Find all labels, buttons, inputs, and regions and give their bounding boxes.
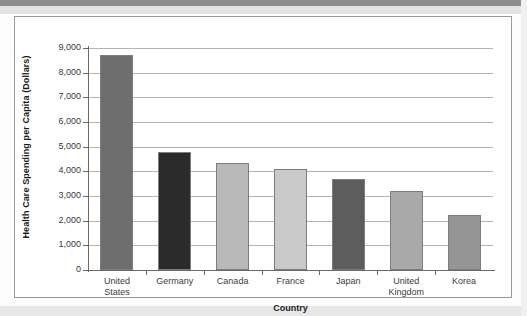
x-axis-tick-label: Canada — [204, 276, 262, 287]
bar — [100, 55, 133, 270]
x-axis-title: Country — [88, 303, 493, 313]
x-axis-tick-label: Japan — [319, 276, 377, 287]
y-axis-tick-label: 8,000 — [35, 67, 81, 77]
x-axis-tick-label: UnitedKingdom — [377, 276, 435, 298]
x-axis-tick-label: Germany — [146, 276, 204, 287]
y-axis-tick-label: 1,000 — [35, 239, 81, 249]
bar — [158, 152, 191, 270]
gridline — [88, 147, 493, 148]
y-axis-tick-label: 9,000 — [35, 42, 81, 52]
x-axis-tick-mark — [204, 270, 205, 275]
x-axis-tick-label-line: France — [262, 276, 320, 287]
bar — [390, 191, 423, 270]
bar — [448, 215, 481, 271]
scan-band-right — [521, 0, 527, 316]
y-axis-tick-label: 5,000 — [35, 141, 81, 151]
x-axis-tick-label-line: Kingdom — [377, 287, 435, 298]
bar — [274, 169, 307, 270]
y-axis-tick-label: 3,000 — [35, 190, 81, 200]
gridline — [88, 122, 493, 123]
x-axis-tick-label: Korea — [435, 276, 493, 287]
plot-area — [88, 48, 493, 270]
scan-band-top-light — [0, 6, 527, 14]
y-axis-line — [88, 46, 89, 272]
x-axis-tick-label-line: Canada — [204, 276, 262, 287]
x-axis-tick-label-line: United — [377, 276, 435, 287]
x-axis-tick-label-line: United — [88, 276, 146, 287]
y-axis-tick-label: 4,000 — [35, 165, 81, 175]
y-axis-tick-label: 0 — [35, 264, 81, 274]
gridline — [88, 73, 493, 74]
chart-frame: Health Care Spending per Capita (Dollars… — [14, 16, 512, 298]
x-axis-tick-mark — [319, 270, 320, 275]
x-axis-tick-label-line: States — [88, 287, 146, 298]
gridline — [88, 48, 493, 49]
x-axis-tick-mark — [146, 270, 147, 275]
x-axis-tick-mark — [435, 270, 436, 275]
x-axis-tick-label: UnitedStates — [88, 276, 146, 298]
x-axis-tick-mark — [262, 270, 263, 275]
bar — [332, 179, 365, 270]
x-axis-tick-label-line: Korea — [435, 276, 493, 287]
gridline — [88, 97, 493, 98]
x-axis-tick-label-line: Germany — [146, 276, 204, 287]
page-background: Health Care Spending per Capita (Dollars… — [0, 0, 527, 316]
x-axis-tick-mark — [377, 270, 378, 275]
x-axis-line — [83, 270, 495, 271]
y-axis-tick-label: 6,000 — [35, 116, 81, 126]
bar — [216, 163, 249, 270]
y-axis-tick-label: 7,000 — [35, 91, 81, 101]
x-axis-tick-label: France — [262, 276, 320, 287]
y-axis-tick-label: 2,000 — [35, 215, 81, 225]
x-axis-tick-label-line: Japan — [319, 276, 377, 287]
